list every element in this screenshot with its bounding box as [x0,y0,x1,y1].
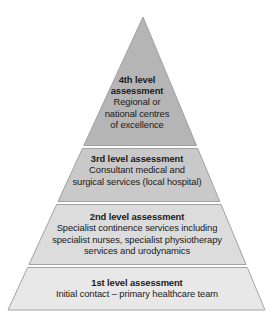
level-4-description: Regional or national centres of excellen… [0,96,274,130]
level-3-title: 3rd level assessment [0,153,274,164]
level-3-description: Consultant medical and surgical services… [0,164,274,187]
level-2-description: Specialist continence services including… [0,222,274,256]
level-1-text-block: 1st level assessment Initial contact – p… [0,277,274,300]
level-4-text-block: 4th level assessment Regional or nationa… [0,74,274,131]
level-2-title: 2nd level assessment [0,211,274,222]
level-4-title: 4th level assessment [0,74,274,96]
level-1-description: Initial contact – primary healthcare tea… [0,288,274,299]
level-1-title: 1st level assessment [0,277,274,288]
pyramid-diagram: 4th level assessment Regional or nationa… [0,0,274,332]
level-2-text-block: 2nd level assessment Specialist continen… [0,211,274,256]
level-3-text-block: 3rd level assessment Consultant medical … [0,153,274,187]
